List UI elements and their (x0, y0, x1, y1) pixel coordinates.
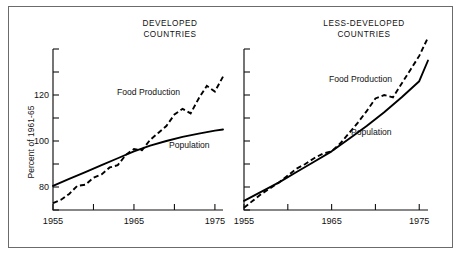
x-tick-label: 1955 (234, 216, 254, 226)
figure-frame: DEVELOPED COUNTRIES LESS-DEVELOPED COUNT… (8, 6, 453, 248)
y-tick-label: 80 (39, 182, 49, 192)
series-annotation-population: Population (169, 140, 210, 150)
x-tick-label: 1975 (409, 216, 429, 226)
plot-area: 80100120195519651975195519651975Food Pro… (9, 7, 454, 249)
x-tick-label: 1965 (321, 216, 341, 226)
y-tick-label: 120 (34, 90, 49, 100)
chart-figure: DEVELOPED COUNTRIES LESS-DEVELOPED COUNT… (0, 0, 461, 255)
x-tick-label: 1975 (205, 216, 225, 226)
axis-lines-developed-countries (53, 49, 223, 210)
x-tick-label: 1965 (124, 216, 144, 226)
series-annotation-food-production: Food Production (117, 87, 180, 97)
series-population (53, 130, 223, 186)
x-tick-label: 1955 (43, 216, 63, 226)
series-annotation-food-production: Food Production (329, 74, 392, 84)
series-food-production (244, 38, 428, 208)
series-annotation-population: Population (351, 127, 392, 137)
y-tick-label: 100 (34, 136, 49, 146)
